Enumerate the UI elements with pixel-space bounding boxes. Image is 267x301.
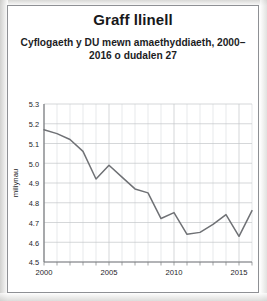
svg-text:2015: 2015 [231, 268, 248, 277]
chart-title: Graff llinell [8, 11, 258, 28]
svg-text:5.1: 5.1 [29, 140, 39, 149]
line-chart-plot: 4.54.64.74.84.95.05.15.25.3 200020052010… [8, 90, 258, 285]
svg-text:5.3: 5.3 [29, 100, 39, 109]
y-axis-title: miliynau [11, 169, 20, 198]
scan-edge-shadow-bottom [0, 293, 267, 301]
chart-svg: 4.54.64.74.84.95.05.15.25.3 200020052010… [8, 90, 258, 285]
svg-text:4.7: 4.7 [29, 219, 39, 228]
scan-edge-shadow-right [260, 0, 267, 301]
svg-text:5.2: 5.2 [29, 120, 39, 129]
x-axis-tick-labels: 2000200520102015 [36, 268, 248, 277]
y-axis-tick-labels: 4.54.64.74.84.95.05.15.25.3 [29, 100, 39, 267]
svg-text:4.6: 4.6 [29, 239, 39, 248]
svg-text:miliynau: miliynau [11, 169, 20, 198]
svg-text:2005: 2005 [101, 268, 118, 277]
svg-text:5.0: 5.0 [29, 160, 39, 169]
svg-text:4.9: 4.9 [29, 179, 39, 188]
svg-text:4.5: 4.5 [29, 258, 39, 267]
svg-text:4.8: 4.8 [29, 199, 39, 208]
scanned-page: Graff llinell Cyflogaeth y DU mewn amaet… [0, 0, 267, 301]
svg-text:2010: 2010 [166, 268, 183, 277]
svg-text:2000: 2000 [36, 268, 53, 277]
chart-subtitle: Cyflogaeth y DU mewn amaethyddiaeth, 200… [18, 36, 248, 62]
